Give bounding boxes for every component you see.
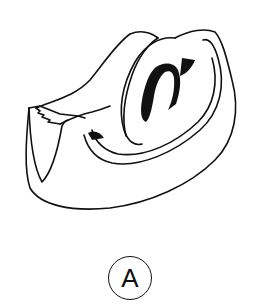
cavity-shadow-top bbox=[180, 58, 195, 76]
tape-dispenser-illustration bbox=[0, 0, 255, 220]
tape-strip-top bbox=[36, 32, 158, 108]
tape-roll-core bbox=[141, 64, 180, 122]
cavity-shadow-bottom bbox=[88, 132, 104, 140]
cutter-teeth bbox=[36, 108, 60, 124]
dispenser-body-outline bbox=[26, 30, 236, 209]
figure-label: A bbox=[108, 256, 152, 300]
label-text: A bbox=[108, 256, 152, 300]
